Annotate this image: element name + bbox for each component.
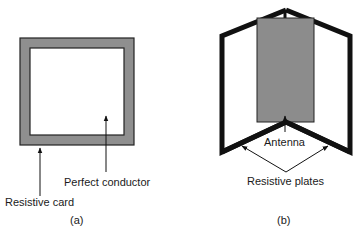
caption-b: (b) bbox=[277, 215, 290, 226]
antenna-label: Antenna bbox=[264, 137, 305, 148]
resistive-plates-label: Resistive plates bbox=[247, 176, 324, 187]
right-plate-arrow bbox=[286, 146, 328, 172]
perfect-conductor-label: Perfect conductor bbox=[64, 177, 150, 188]
left-plate-arrow bbox=[242, 146, 286, 172]
diagram-canvas: Perfect conductor Resistive card (a) Ant… bbox=[0, 0, 362, 238]
panel-b-reflector bbox=[222, 10, 350, 152]
caption-a: (a) bbox=[70, 215, 83, 226]
panel-a-card bbox=[20, 38, 134, 145]
resistive-card-label: Resistive card bbox=[5, 197, 74, 208]
antenna-element bbox=[257, 18, 314, 122]
perfect-conductor-plate bbox=[30, 48, 124, 135]
